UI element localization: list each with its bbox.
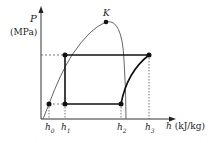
tick-h2: h2 xyxy=(117,123,127,134)
critical-point xyxy=(104,20,109,25)
point-low-right xyxy=(119,102,124,107)
point-high-left xyxy=(63,53,68,58)
y-axis-arrow-icon xyxy=(39,6,44,13)
critical-point-label: K xyxy=(103,9,110,18)
point-h0 xyxy=(47,102,52,107)
point-high-right xyxy=(147,53,152,58)
tick-h0: h0 xyxy=(45,123,55,134)
x-axis-label: h (kJ/kg) xyxy=(166,122,205,131)
point-low-left xyxy=(63,102,68,107)
tick-h1: h1 xyxy=(61,123,71,134)
tick-h3: h3 xyxy=(145,123,155,134)
y-axis-unit: (MPa) xyxy=(10,28,37,37)
y-axis-symbol: P xyxy=(30,14,37,24)
